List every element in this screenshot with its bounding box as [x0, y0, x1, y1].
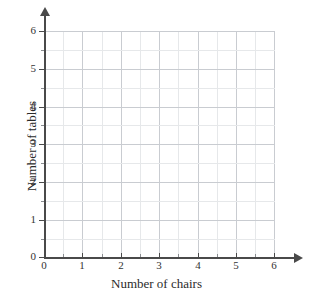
plot-area	[44, 31, 275, 258]
gridline-h-minor-4	[44, 88, 275, 89]
x-tick-minor-2	[140, 254, 141, 257]
gridline-h-5	[44, 69, 275, 70]
x-tick-minor-4	[217, 254, 218, 257]
gridline-h-6	[44, 31, 275, 32]
gridline-h-minor-5	[44, 50, 275, 51]
y-tick-label-0: 0	[20, 250, 36, 263]
x-tick-3	[159, 253, 160, 258]
y-tick-minor-2	[41, 163, 44, 164]
x-tick-minor-1	[102, 254, 103, 257]
gridline-h-minor-2	[44, 163, 275, 164]
y-tick-minor-4	[41, 88, 44, 89]
x-tick-label-6: 6	[262, 259, 286, 272]
x-tick-label-1: 1	[70, 259, 94, 272]
x-tick-2	[121, 253, 122, 258]
gridlines	[44, 31, 275, 258]
gridline-h-4	[44, 107, 275, 108]
x-tick-label-3: 3	[147, 259, 171, 272]
x-tick-minor-5	[255, 254, 256, 257]
y-tick-label-6: 6	[20, 24, 36, 37]
x-tick-5	[236, 253, 237, 258]
y-tick-minor-5	[41, 50, 44, 51]
y-tick-minor-0	[41, 239, 44, 240]
x-tick-0	[44, 253, 45, 258]
gridline-h-minor-0	[44, 239, 275, 240]
y-tick-6	[39, 31, 44, 32]
y-axis-line	[44, 14, 46, 259]
x-axis-arrow-icon	[294, 253, 303, 263]
gridline-h-minor-3	[44, 125, 275, 126]
gridline-h-2	[44, 182, 275, 183]
x-tick-label-5: 5	[224, 259, 248, 272]
y-tick-minor-1	[41, 201, 44, 202]
x-axis-label: Number of chairs	[0, 276, 313, 292]
y-tick-0	[39, 257, 44, 258]
gridline-h-3	[44, 144, 275, 145]
gridline-h-minor-1	[44, 201, 275, 202]
x-tick-minor-3	[178, 254, 179, 257]
gridline-h-1	[44, 220, 275, 221]
x-tick-label-4: 4	[186, 259, 210, 272]
x-tick-label-2: 2	[109, 259, 133, 272]
y-axis-label: Number of tables	[24, 56, 40, 236]
chart-figure: 0 1 2 3 4 5 6 6 5 4 3 2 1 0 Number of ch…	[0, 0, 313, 303]
y-axis-arrow-icon	[40, 7, 50, 16]
x-tick-1	[82, 253, 83, 258]
y-tick-minor-3	[41, 125, 44, 126]
x-tick-minor-0	[63, 254, 64, 257]
x-tick-4	[198, 253, 199, 258]
x-tick-6	[274, 253, 275, 258]
